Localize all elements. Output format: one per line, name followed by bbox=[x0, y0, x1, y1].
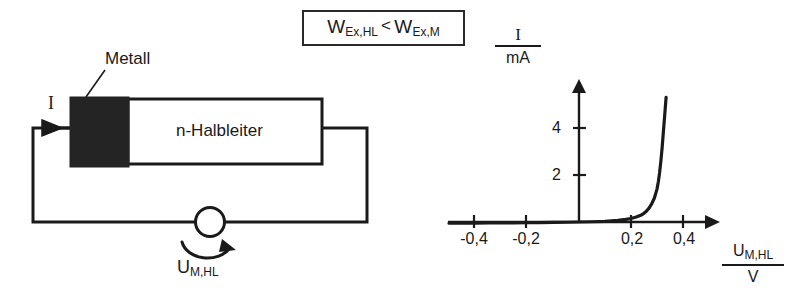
x-axis-label-symbol: U bbox=[733, 242, 745, 259]
y-tick-label-2: 2 bbox=[543, 167, 561, 183]
x-axis-label-denominator: V bbox=[722, 268, 784, 285]
x-axis-label-fraction-bar bbox=[722, 264, 784, 266]
figure-root: WEx,HL<WEx,M Metall n-Halbleite bbox=[0, 0, 805, 299]
y-axis-label-fraction-bar bbox=[495, 45, 541, 47]
x-tick-label-pos02: 0,2 bbox=[613, 231, 651, 247]
y-axis-label-denominator: mA bbox=[495, 49, 541, 66]
y-axis-arrow-head bbox=[572, 79, 586, 93]
y-tick-label-4: 4 bbox=[543, 120, 561, 136]
x-tick-label-neg04: -0,4 bbox=[455, 231, 493, 247]
x-axis-arrow-head bbox=[705, 215, 720, 229]
x-tick-label-pos04: 0,4 bbox=[665, 231, 703, 247]
y-axis-label: I mA bbox=[495, 26, 541, 67]
x-axis-label-subscript: M,HL bbox=[744, 248, 773, 262]
y-axis bbox=[572, 79, 586, 222]
iv-curve-path bbox=[449, 97, 666, 223]
iv-characteristic-chart bbox=[0, 0, 805, 299]
y-axis-label-numerator: I bbox=[495, 26, 541, 44]
x-axis-label-numerator: UM,HL bbox=[722, 243, 784, 263]
x-tick-label-neg02: -0,2 bbox=[507, 231, 545, 247]
x-axis-label: UM,HL V bbox=[722, 243, 784, 285]
